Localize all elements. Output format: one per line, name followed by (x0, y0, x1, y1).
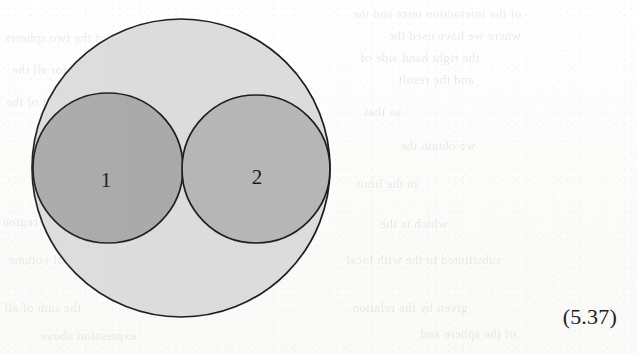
inner-circle-1-label: 1 (101, 168, 112, 192)
bleed-line: we obtain the (400, 138, 475, 154)
bleed-line: given by the relation (352, 300, 468, 316)
circles-figure: 1 2 (0, 0, 360, 340)
equation-number: (5.37) (563, 304, 617, 330)
circles-figure-svg: 1 2 (0, 0, 360, 345)
bleed-line: where we have used the (388, 28, 521, 44)
bleed-line: the right hand side of (360, 50, 479, 66)
inner-circle-2-label: 2 (252, 165, 263, 189)
bleed-line: of the interaction term and the (352, 6, 521, 22)
bleed-line: substituted to the with local (346, 252, 501, 268)
bleed-line: and the result (398, 72, 474, 88)
bleed-line: in the limit (356, 176, 418, 192)
scanned-page: of the interaction term and the where we… (0, 0, 637, 354)
bleed-line: so that (364, 104, 401, 120)
bleed-line: which is the (380, 216, 448, 232)
bleed-line: of the sphere and (420, 326, 516, 342)
